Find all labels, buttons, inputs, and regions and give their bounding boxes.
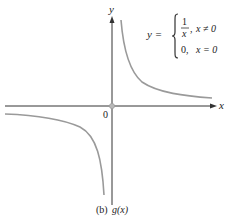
- y-axis-label: y: [108, 3, 114, 15]
- y-axis-arrow-icon: [110, 16, 115, 23]
- origin-label: 0: [103, 109, 108, 120]
- origin-point: [109, 103, 114, 108]
- x-axis-arrow-icon: [210, 104, 217, 109]
- brace-icon: [172, 14, 178, 58]
- case2-value: 0,: [181, 44, 189, 55]
- graph-figure: y x 0 y = 1 x , x ≠ 0 0, x = 0 (b) g(x): [0, 0, 228, 219]
- case2-condition: x = 0: [195, 44, 217, 55]
- case1-denominator: x: [181, 28, 187, 39]
- case1-condition: x ≠ 0: [195, 23, 216, 34]
- case1-separator: ,: [190, 23, 193, 34]
- curve-left-branch: [5, 114, 104, 195]
- case1-numerator: 1: [182, 16, 187, 27]
- caption-function: g(x): [112, 204, 129, 216]
- definition-lhs: y =: [146, 28, 162, 40]
- caption-prefix: (b): [96, 204, 108, 216]
- x-axis-label: x: [218, 99, 224, 111]
